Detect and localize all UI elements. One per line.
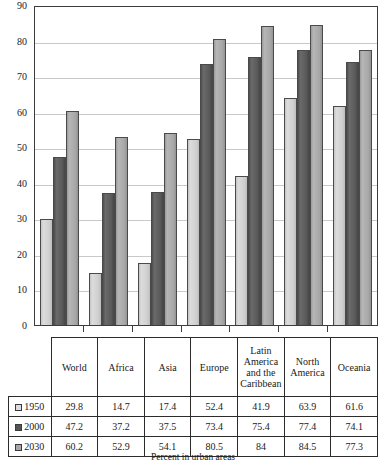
y-tick-label: 10 — [17, 285, 27, 295]
y-tick-label: 50 — [17, 143, 27, 153]
category-header-cell: North America — [284, 338, 331, 397]
bar — [53, 157, 66, 325]
table-row: 195029.814.717.452.441.963.961.6 — [9, 397, 378, 417]
y-tick-label: 80 — [17, 37, 27, 47]
bar — [187, 139, 200, 325]
bar-group — [182, 7, 231, 325]
bar-group — [35, 7, 84, 325]
bar — [359, 50, 372, 325]
y-tick-label: 90 — [17, 1, 27, 11]
legend-item-2000: 2000 — [9, 417, 52, 437]
legend-label: 1950 — [24, 401, 44, 412]
bar — [115, 137, 128, 325]
bar — [333, 106, 346, 325]
table-header-row: WorldAfricaAsiaEuropeLatin America and t… — [9, 338, 378, 397]
data-cell: 75.4 — [238, 417, 285, 437]
legend-swatch-icon — [15, 404, 22, 411]
bar — [164, 133, 177, 325]
y-tick-label: 60 — [17, 108, 27, 118]
data-cell: 61.6 — [331, 397, 378, 417]
x-axis-tick — [278, 325, 279, 332]
data-cell: 37.2 — [98, 417, 145, 437]
category-header-cell: Asia — [144, 338, 191, 397]
urban-population-chart-figure: 0102030405060708090 WorldAfricaAsiaEurop… — [0, 0, 386, 465]
legend-label: 2000 — [24, 421, 44, 432]
data-cell: 41.9 — [238, 397, 285, 417]
bar-group — [230, 7, 279, 325]
y-tick-label: 40 — [17, 179, 27, 189]
category-header-cell: World — [51, 338, 98, 397]
data-cell: 63.9 — [284, 397, 331, 417]
bar — [213, 39, 226, 325]
y-tick-label: 70 — [17, 72, 27, 82]
y-axis: 0102030405060708090 — [0, 0, 31, 340]
bar-group — [84, 7, 133, 325]
data-cell: 17.4 — [144, 397, 191, 417]
legend-swatch-icon — [15, 444, 22, 451]
chart-caption: Percent in urban areas — [0, 452, 386, 462]
data-cell: 29.8 — [51, 397, 98, 417]
data-cell: 52.4 — [191, 397, 238, 417]
bar — [346, 62, 359, 325]
category-header-cell: Oceania — [331, 338, 378, 397]
data-cell: 14.7 — [98, 397, 145, 417]
bar — [261, 26, 274, 325]
bar — [200, 64, 213, 325]
data-cell: 47.2 — [51, 417, 98, 437]
bar — [89, 273, 102, 325]
legend-swatch-icon — [15, 424, 22, 431]
bars-layer — [35, 7, 377, 325]
x-axis-tick — [83, 325, 84, 332]
bar — [138, 263, 151, 325]
bar-group — [279, 7, 328, 325]
legend-item-1950: 1950 — [9, 397, 52, 417]
y-tick-label: 20 — [17, 250, 27, 260]
table-corner-cell — [9, 338, 52, 397]
bar — [235, 176, 248, 325]
bar — [248, 57, 261, 325]
data-cell: 37.5 — [144, 417, 191, 437]
data-cell: 73.4 — [191, 417, 238, 437]
bar — [310, 25, 323, 325]
x-axis-tick — [181, 325, 182, 332]
table-row: 200047.237.237.573.475.477.474.1 — [9, 417, 378, 437]
category-header-cell: Europe — [191, 338, 238, 397]
x-axis-tick — [132, 325, 133, 332]
category-header-cell: Africa — [98, 338, 145, 397]
bar-group — [328, 7, 377, 325]
bar — [297, 50, 310, 325]
bar — [40, 219, 53, 325]
bar — [66, 111, 79, 325]
bar-group — [133, 7, 182, 325]
bar — [102, 193, 115, 325]
x-axis-tick — [327, 325, 328, 332]
plot-region: 0102030405060708090 — [0, 0, 386, 340]
category-header-cell: Latin America and the Caribbean — [238, 338, 285, 397]
y-tick-label: 0 — [22, 321, 27, 331]
data-cell: 77.4 — [284, 417, 331, 437]
plot-area — [34, 6, 378, 326]
data-table: WorldAfricaAsiaEuropeLatin America and t… — [8, 337, 378, 457]
y-tick-label: 30 — [17, 214, 27, 224]
bar — [151, 192, 164, 325]
x-axis-tick — [229, 325, 230, 332]
legend-label: 2030 — [24, 441, 44, 452]
bar — [284, 98, 297, 325]
data-cell: 74.1 — [331, 417, 378, 437]
